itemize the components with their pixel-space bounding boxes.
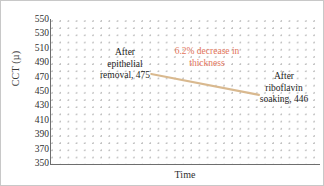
annotation-after-riboflavin-soaking: After riboflavin soaking, 446 xyxy=(245,71,323,106)
cct-line-segment xyxy=(151,74,259,95)
y-axis-tick-430: 430 xyxy=(35,102,49,112)
y-axis-tick-490: 490 xyxy=(35,58,49,68)
x-axis-title: Time xyxy=(51,169,319,180)
y-axis-tick-350: 350 xyxy=(35,159,49,169)
y-axis-tick-370: 370 xyxy=(35,145,49,155)
y-axis-tick-450: 450 xyxy=(35,87,49,97)
y-axis-tick-510: 510 xyxy=(35,44,49,54)
y-axis-tick-470: 470 xyxy=(35,73,49,83)
chart-container: CCT (µ) 55053051049047045043041039037035… xyxy=(0,0,324,186)
y-axis-tick-390: 390 xyxy=(35,130,49,140)
y-axis-tick-550: 550 xyxy=(35,15,49,25)
y-axis-title: CCT (µ) xyxy=(10,29,21,109)
annotation-percent-decrease: 6.2% decrease in thickness xyxy=(161,46,253,69)
annotation-after-epithelial-removal: After epithelial removal, 475 xyxy=(85,47,165,82)
y-axis-tick-labels: 550530510490470450430410390370350 xyxy=(23,20,49,164)
y-axis-tick-530: 530 xyxy=(35,30,49,40)
x-axis-line xyxy=(50,164,320,165)
y-axis-tick-410: 410 xyxy=(35,116,49,126)
